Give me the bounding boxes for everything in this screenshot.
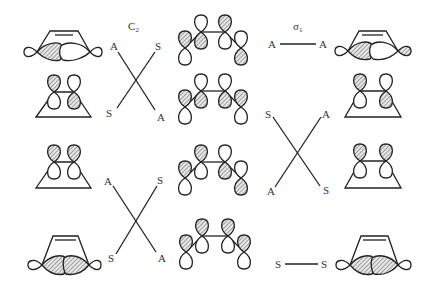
sigma-top-left-label: A bbox=[268, 38, 276, 50]
c2-top-left-label: A bbox=[110, 40, 118, 52]
sigma-cross-bottom-right-label: S bbox=[323, 184, 329, 196]
middle-orbital-2 bbox=[179, 74, 248, 124]
sigma-cross-top-right-label: A bbox=[322, 108, 330, 120]
left-orbital-4 bbox=[28, 236, 101, 274]
c2-symmetry-label: C₂ bbox=[128, 20, 139, 32]
sigma-line-bottom: S S bbox=[275, 258, 327, 270]
c2-bottom-left-label: S bbox=[106, 107, 112, 119]
c2-bottom-cross-bottom-right-label: A bbox=[158, 252, 166, 264]
left-orbital-3 bbox=[36, 145, 91, 188]
sigma-cross-middle: S A A S bbox=[265, 108, 330, 197]
right-orbital-2 bbox=[345, 74, 401, 117]
c2-top-right-label: S bbox=[155, 40, 161, 52]
middle-orbital-4 bbox=[180, 219, 251, 269]
c2-cross-top: A S S A bbox=[106, 40, 165, 123]
correlation-diagram: C₂ σ₁ bbox=[0, 0, 430, 293]
c2-cross-bottom: A S S A bbox=[104, 174, 166, 264]
middle-orbital-1 bbox=[179, 15, 248, 65]
right-orbital-4 bbox=[336, 236, 411, 274]
c2-bottom-cross-bottom-left-label: S bbox=[108, 252, 114, 264]
c2-bottom-cross-top-left-label: A bbox=[104, 175, 112, 187]
sigma-line-top: A A bbox=[268, 38, 327, 50]
right-orbital-1 bbox=[335, 31, 411, 60]
left-orbital-1 bbox=[24, 31, 102, 61]
sigma-cross-bottom-left-label: A bbox=[267, 185, 275, 197]
right-orbital-3 bbox=[345, 144, 401, 188]
middle-orbital-3 bbox=[179, 145, 248, 195]
c2-bottom-right-label: A bbox=[157, 111, 165, 123]
sigma-top-right-label: A bbox=[319, 38, 327, 50]
sigma-symmetry-label: σ₁ bbox=[293, 20, 303, 32]
left-orbital-2 bbox=[36, 75, 91, 117]
c2-bottom-cross-top-right-label: S bbox=[157, 174, 163, 186]
sigma-bottom-right-label: S bbox=[321, 258, 327, 270]
sigma-cross-top-left-label: S bbox=[265, 108, 271, 120]
sigma-bottom-left-label: S bbox=[275, 258, 281, 270]
